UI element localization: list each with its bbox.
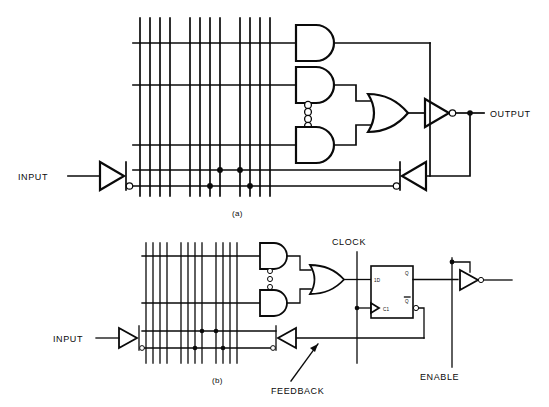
panel-b-feedback-callout (291, 344, 318, 381)
panel-b-figure-label: (b) (212, 376, 223, 385)
panel-b: CLOCK 1D C1 Q Q ENABLE (53, 237, 512, 396)
figure-canvas: OUTPUT INPUT (a) (0, 0, 549, 407)
panel-a-and-bottom-output-wire (334, 125, 370, 145)
panel-a-feedback-buffer (393, 162, 426, 190)
panel-a-input-label: INPUT (18, 172, 48, 182)
panel-b-clock-label: CLOCK (332, 237, 366, 247)
panel-a-or-gate (368, 94, 408, 132)
panel-b-output-inverter (460, 270, 484, 290)
panel-b-ff-qbar-bubble (413, 305, 418, 310)
panel-a-and-gate-bottom (296, 127, 334, 163)
panel-b-input-label: INPUT (53, 334, 83, 344)
panel-b-and-gate-top (260, 243, 287, 269)
panel-a: OUTPUT INPUT (a) (18, 18, 531, 218)
panel-b-and-bottom-output-wire (287, 289, 311, 303)
panel-b-ff-clock-input-label: C1 (383, 307, 390, 312)
panel-b-ff-qbar-output-label: Q (405, 299, 409, 304)
panel-b-clock-junction-dot (355, 306, 360, 311)
panel-b-connection-dots (193, 329, 226, 351)
logic-diagram-svg: OUTPUT INPUT (a) (0, 0, 549, 407)
panel-b-d-flipflop: 1D C1 Q Q (371, 266, 413, 318)
panel-b-ff-qbar-wire (419, 308, 424, 338)
panel-b-and-gate-bottom (260, 290, 287, 316)
panel-b-and-gate-ellipsis (268, 268, 273, 289)
panel-a-output-label: OUTPUT (490, 109, 531, 119)
panel-a-and-mid-output-wire (334, 85, 370, 101)
panel-a-product-term-lines (133, 43, 296, 145)
panel-b-and-top-output-wire (287, 256, 311, 270)
panel-b-feedback-label: FEEDBACK (271, 386, 324, 396)
panel-b-ff-q-output-label: Q (405, 271, 409, 276)
panel-a-and-gate-mid (296, 67, 334, 103)
panel-b-ff-d-input-label: 1D (374, 278, 381, 283)
panel-b-or-gate (310, 265, 344, 294)
panel-b-enable-label: ENABLE (420, 372, 459, 382)
panel-b-input-buffer (119, 326, 144, 350)
panel-b-feedback-buffer (271, 326, 296, 350)
panel-a-figure-label: (a) (232, 209, 243, 218)
panel-a-input-buffer (100, 162, 133, 190)
panel-a-and-gate-ellipsis (305, 101, 312, 129)
panel-a-and-gate-top (296, 25, 334, 61)
